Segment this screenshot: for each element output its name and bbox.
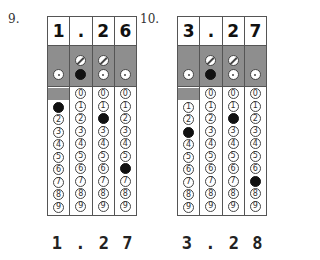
digit-bubble-3[interactable]: 3	[205, 126, 216, 137]
answer-entry-box[interactable]: 2	[92, 17, 114, 45]
decimal-point-bubble[interactable]	[228, 69, 239, 80]
digit-bubble-1[interactable]: 1	[228, 101, 239, 112]
digit-bubble-8[interactable]: 8	[53, 189, 64, 200]
digit-bubble-1[interactable]: 1	[53, 102, 64, 113]
digit-bubble-8[interactable]: 8	[228, 188, 239, 199]
digit-bubble-7[interactable]: 7	[250, 176, 261, 187]
digit-bubble-7[interactable]: 7	[183, 177, 194, 188]
decimal-point-bubble[interactable]	[205, 69, 216, 80]
answer-entry-box[interactable]: 2	[222, 17, 244, 45]
answer-entry-box[interactable]: .	[69, 17, 91, 45]
digit-bubble-1[interactable]: 1	[183, 102, 194, 113]
digit-bubble-0[interactable]: 0	[120, 88, 131, 99]
digit-bubble-4[interactable]: 4	[53, 139, 64, 150]
digit-bubble-7[interactable]: 7	[205, 176, 216, 187]
digit-bubble-6[interactable]: 6	[53, 164, 64, 175]
digit-bubble-8[interactable]: 8	[250, 188, 261, 199]
digit-bubble-6[interactable]: 6	[205, 163, 216, 174]
digit-bubble-7[interactable]: 7	[53, 177, 64, 188]
digit-bubble-5[interactable]: 5	[120, 151, 131, 162]
digit-bubble-6[interactable]: 6	[98, 163, 109, 174]
digit-bubble-8[interactable]: 8	[183, 189, 194, 200]
digit-bubble-3[interactable]: 3	[120, 126, 131, 137]
digit-bubble-4[interactable]: 4	[75, 138, 86, 149]
digit-bubble-1[interactable]: 1	[250, 101, 261, 112]
digit-bubble-9[interactable]: 9	[53, 202, 64, 213]
digit-bubble-2[interactable]: 2	[120, 113, 131, 124]
digit-bubble-4[interactable]: 4	[228, 138, 239, 149]
digit-bubble-5[interactable]: 5	[183, 152, 194, 163]
decimal-point-bubble[interactable]	[98, 69, 109, 80]
digit-bubble-0[interactable]: 0	[228, 88, 239, 99]
digit-bubble-3[interactable]: 3	[228, 126, 239, 137]
digit-bubble-9[interactable]: 9	[120, 201, 131, 212]
answer-entry-box[interactable]: 7	[244, 17, 266, 45]
digit-bubble-0[interactable]: 0	[98, 88, 109, 99]
digit-bubble-2[interactable]: 2	[250, 113, 261, 124]
digit-bubble-0[interactable]: 0	[205, 88, 216, 99]
digit-bubble-1[interactable]: 1	[75, 101, 86, 112]
digit-bubble-1[interactable]: 1	[205, 101, 216, 112]
answer-entry-box[interactable]: 3	[178, 17, 199, 45]
digit-bubble-8[interactable]: 8	[98, 188, 109, 199]
digit-bubble-5[interactable]: 5	[228, 151, 239, 162]
digit-bubble-3[interactable]: 3	[250, 126, 261, 137]
answer-entry-box[interactable]: 1	[48, 17, 69, 45]
digit-bubble-5[interactable]: 5	[250, 151, 261, 162]
entered-character: .	[208, 21, 214, 41]
digit-bubble-5[interactable]: 5	[75, 151, 86, 162]
digit-bubble-4[interactable]: 4	[250, 138, 261, 149]
digit-bubble-5[interactable]: 5	[98, 151, 109, 162]
digit-bubble-2[interactable]: 2	[183, 114, 194, 125]
digit-bubble-8[interactable]: 8	[75, 188, 86, 199]
digit-bubble-1[interactable]: 1	[98, 101, 109, 112]
digit-bubble-3[interactable]: 3	[183, 127, 194, 138]
digit-bubble-4[interactable]: 4	[98, 138, 109, 149]
digit-bubble-9[interactable]: 9	[205, 201, 216, 212]
digit-bubble-8[interactable]: 8	[120, 188, 131, 199]
digit-bubble-2[interactable]: 2	[228, 113, 239, 124]
fraction-slash-bubble[interactable]	[98, 55, 109, 66]
decimal-point-bubble[interactable]	[53, 69, 64, 80]
digit-bubble-2[interactable]: 2	[75, 113, 86, 124]
digit-bubble-5[interactable]: 5	[205, 151, 216, 162]
digit-bubble-2[interactable]: 2	[53, 114, 64, 125]
fraction-slash-bubble[interactable]	[75, 55, 86, 66]
digit-bubble-2[interactable]: 2	[205, 113, 216, 124]
digit-bubble-6[interactable]: 6	[183, 164, 194, 175]
digit-bubble-9[interactable]: 9	[228, 201, 239, 212]
digit-bubble-9[interactable]: 9	[250, 201, 261, 212]
digit-bubble-7[interactable]: 7	[75, 176, 86, 187]
decimal-point-bubble[interactable]	[183, 69, 194, 80]
digit-bubble-7[interactable]: 7	[228, 176, 239, 187]
digit-bubble-5[interactable]: 5	[53, 152, 64, 163]
digit-bubble-6[interactable]: 6	[75, 163, 86, 174]
decimal-point-bubble[interactable]	[120, 69, 131, 80]
fraction-slash-bubble[interactable]	[205, 55, 216, 66]
digit-bubble-3[interactable]: 3	[53, 127, 64, 138]
digit-bubble-4[interactable]: 4	[120, 138, 131, 149]
answer-entry-box[interactable]: .	[199, 17, 221, 45]
grid-in-answer-9: 1.26123456789012345678901234567890123456…	[47, 16, 137, 216]
digit-bubble-9[interactable]: 9	[75, 201, 86, 212]
digit-bubble-0[interactable]: 0	[75, 88, 86, 99]
digit-bubble-9[interactable]: 9	[183, 202, 194, 213]
decimal-point-bubble[interactable]	[75, 69, 86, 80]
digit-bubble-8[interactable]: 8	[205, 188, 216, 199]
digit-bubble-3[interactable]: 3	[98, 126, 109, 137]
digit-bubble-7[interactable]: 7	[98, 176, 109, 187]
decimal-point-bubble[interactable]	[250, 69, 261, 80]
fraction-slash-bubble[interactable]	[228, 55, 239, 66]
digit-bubble-2[interactable]: 2	[98, 113, 109, 124]
digit-bubble-3[interactable]: 3	[75, 126, 86, 137]
digit-bubble-9[interactable]: 9	[98, 201, 109, 212]
digit-bubble-7[interactable]: 7	[120, 176, 131, 187]
digit-bubble-6[interactable]: 6	[228, 163, 239, 174]
digit-bubble-6[interactable]: 6	[120, 163, 131, 174]
digit-bubble-0[interactable]: 0	[250, 88, 261, 99]
digit-bubble-1[interactable]: 1	[120, 101, 131, 112]
digit-bubble-4[interactable]: 4	[183, 139, 194, 150]
digit-bubble-4[interactable]: 4	[205, 138, 216, 149]
answer-entry-box[interactable]: 6	[114, 17, 136, 45]
digit-bubble-6[interactable]: 6	[250, 163, 261, 174]
